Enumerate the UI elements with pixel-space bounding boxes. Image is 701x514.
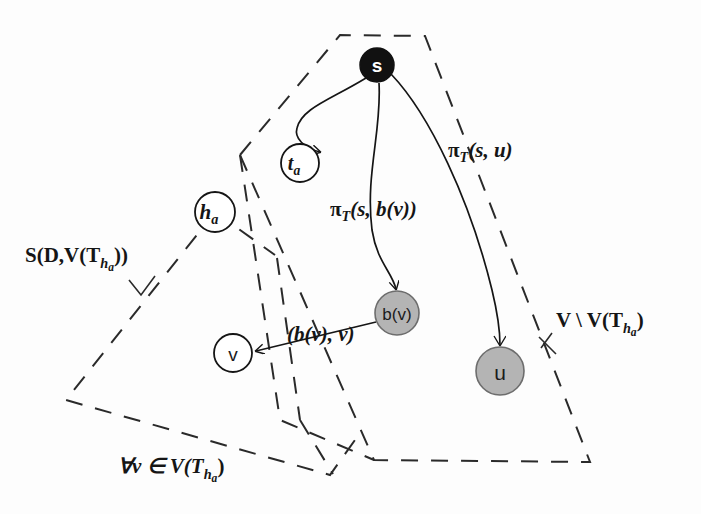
node-t-a[interactable]: ta <box>281 144 319 182</box>
region-right-boundary <box>240 35 590 462</box>
node-v[interactable]: v <box>214 334 252 372</box>
caption-forall: ∀v ∈ V(Tha) <box>118 454 224 484</box>
node-u-label: u <box>494 361 506 384</box>
edge-s-to-bv <box>370 83 396 289</box>
label-pi-s-bv: πT(s, b(v)) <box>330 197 417 224</box>
node-b-v[interactable]: b(v) <box>375 291 419 335</box>
node-u[interactable]: u <box>476 347 524 395</box>
edge-s-to-ta <box>296 78 366 152</box>
label-edge-bv-v: (b(v), v) <box>287 322 355 346</box>
node-s[interactable]: s <box>360 48 394 82</box>
figure-canvas: s ta ha b(v) v u πT(s, u) <box>0 0 701 514</box>
node-s-label: s <box>372 55 383 76</box>
node-v-label: v <box>228 344 238 365</box>
diagram-svg: s ta ha b(v) v u πT(s, u) <box>0 0 701 514</box>
label-region-left: S(D,V(Tha)) <box>25 243 128 273</box>
node-b-v-label: b(v) <box>382 305 411 324</box>
label-region-right: V \ V(Tha) <box>556 308 644 338</box>
node-h-a[interactable]: ha <box>195 192 235 232</box>
label-pi-s-u: πT(s, u) <box>448 138 513 165</box>
